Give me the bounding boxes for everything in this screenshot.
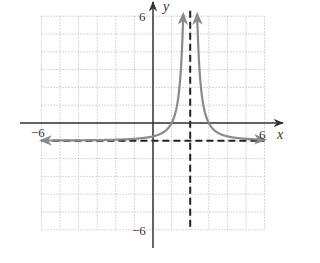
y-axis-label: y	[163, 0, 169, 14]
y-max-tick-label: 6	[139, 10, 146, 23]
left-branch-curve	[41, 14, 183, 140]
x-axis-label: x	[277, 128, 283, 142]
y-min-tick-label: −6	[132, 224, 146, 237]
axes	[20, 2, 283, 248]
x-min-tick-label: −6	[31, 126, 45, 139]
x-max-tick-label: 6	[259, 128, 266, 141]
right-branch-curve	[197, 14, 264, 139]
